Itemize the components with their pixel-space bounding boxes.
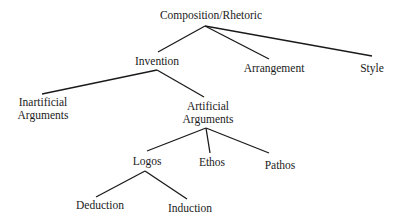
edge-logos-deduction — [96, 171, 145, 197]
edge-root-invention — [158, 26, 205, 52]
edge-root-style — [205, 26, 372, 56]
edge-artificial-logos — [147, 128, 206, 151]
edge-artificial-ethos — [206, 128, 210, 153]
edge-invention-artificial — [157, 70, 204, 97]
edge-logos-induction — [145, 171, 187, 199]
node-logos: Logos — [133, 155, 162, 168]
node-artificial-line2: Arguments — [183, 113, 234, 126]
node-ethos: Ethos — [199, 156, 225, 169]
node-induction: Induction — [168, 202, 212, 215]
rhetoric-tree-diagram: Composition/Rhetoric Invention Arrangeme… — [0, 0, 399, 222]
node-style: Style — [360, 62, 384, 75]
node-artificial-line1: Artificial — [183, 100, 234, 113]
node-composition-rhetoric: Composition/Rhetoric — [160, 9, 262, 22]
edge-artificial-pathos — [206, 128, 269, 153]
edge-root-arrangement — [205, 26, 269, 59]
node-invention: Invention — [135, 55, 179, 68]
node-arrangement: Arrangement — [244, 62, 305, 75]
node-artificial-arguments: Artificial Arguments — [183, 100, 234, 126]
node-inartificial-arguments: Inartificial Arguments — [18, 96, 69, 122]
node-inartificial-line2: Arguments — [18, 109, 69, 122]
node-deduction: Deduction — [76, 199, 124, 212]
node-inartificial-line1: Inartificial — [18, 96, 69, 109]
edge-invention-inartificial — [42, 70, 157, 94]
node-pathos: Pathos — [265, 159, 296, 172]
